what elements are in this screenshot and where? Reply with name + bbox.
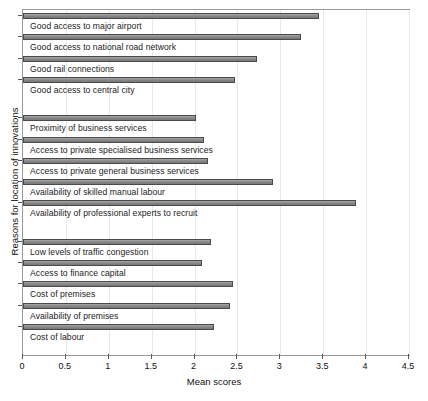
bar <box>23 324 214 330</box>
x-axis-tick <box>279 354 280 359</box>
gridline <box>323 10 324 355</box>
x-axis-tick <box>22 354 23 359</box>
bar <box>23 179 273 185</box>
x-axis-tick-label: 2 <box>191 361 196 371</box>
x-axis-tick <box>65 354 66 359</box>
x-axis-tick-label: 4 <box>363 361 368 371</box>
bar-category-label: Access to finance capital <box>30 268 126 278</box>
x-axis-tick-label: 3.5 <box>316 361 329 371</box>
y-axis-tick <box>18 241 22 242</box>
bar <box>23 56 257 62</box>
bar <box>23 158 208 164</box>
y-axis-tick <box>18 58 22 59</box>
x-axis-tick-label: 0.5 <box>59 361 72 371</box>
gridline <box>409 10 410 355</box>
y-axis-tick <box>18 305 22 306</box>
bar-category-label: Proximity of business services <box>30 123 147 133</box>
bar-category-label: Good access to central city <box>30 85 135 95</box>
bar-category-label: Cost of labour <box>30 332 84 342</box>
bar <box>23 137 204 143</box>
bar-category-label: Access to private general business servi… <box>30 166 199 176</box>
chart-figure: Good access to major airportGood access … <box>0 0 428 401</box>
bar-category-label: Availability of professional experts to … <box>30 208 197 218</box>
bar-category-label: Availability of skilled manual labour <box>30 187 165 197</box>
x-axis-tick <box>236 354 237 359</box>
x-axis-tick <box>151 354 152 359</box>
y-axis-tick <box>18 139 22 140</box>
y-axis-tick <box>18 262 22 263</box>
bar <box>23 281 233 287</box>
bar-category-label: Low levels of traffic congestion <box>30 247 148 257</box>
bar-category-label: Good rail connections <box>30 64 114 74</box>
y-axis-tick <box>18 181 22 182</box>
x-axis-tick-label: 1 <box>105 361 110 371</box>
plot-area: Good access to major airportGood access … <box>22 9 410 356</box>
bar <box>23 260 202 266</box>
x-axis-tick <box>365 354 366 359</box>
gridline <box>280 10 281 355</box>
bar-category-label: Availability of premises <box>30 311 118 321</box>
bar-category-label: Cost of premises <box>30 289 95 299</box>
x-axis-tick <box>194 354 195 359</box>
bar <box>23 13 319 19</box>
y-axis-tick <box>18 160 22 161</box>
bar <box>23 200 356 206</box>
y-axis-tick <box>18 283 22 284</box>
x-axis-tick <box>322 354 323 359</box>
bar <box>23 115 196 121</box>
y-axis-tick <box>18 15 22 16</box>
bar <box>23 303 230 309</box>
bar-category-label: Good access to national road network <box>30 42 176 52</box>
x-axis-tick-label: 2.5 <box>230 361 243 371</box>
x-axis-tick-label: 1.5 <box>144 361 157 371</box>
y-axis-tick <box>18 202 22 203</box>
x-axis-tick-label: 0 <box>19 361 24 371</box>
y-axis-tick <box>18 326 22 327</box>
x-axis-label: Mean scores <box>0 376 428 387</box>
bar-category-label: Access to private specialised business s… <box>30 145 213 155</box>
y-axis-tick <box>18 117 22 118</box>
bar <box>23 239 211 245</box>
y-axis-tick <box>18 36 22 37</box>
bar <box>23 34 301 40</box>
x-axis-tick-label: 4.5 <box>402 361 415 371</box>
x-axis-tick-label: 3 <box>277 361 282 371</box>
y-axis-tick <box>18 79 22 80</box>
bar <box>23 77 235 83</box>
x-axis-tick <box>408 354 409 359</box>
gridline <box>366 10 367 355</box>
x-axis-tick <box>108 354 109 359</box>
bar-category-label: Good access to major airport <box>30 21 142 31</box>
